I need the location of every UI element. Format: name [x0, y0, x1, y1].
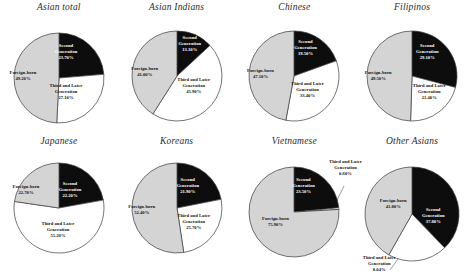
pie-svg: [118, 134, 236, 277]
pie-slice-foreign-born: [367, 31, 412, 121]
pie-slice-third-and-later: [177, 199, 222, 252]
pie-wrap: [118, 134, 236, 277]
pie-chart-cell: KoreansSecondGeneration21.90%Third and L…: [118, 134, 236, 277]
pie-svg: [353, 134, 471, 277]
pie-chart-cell: VietnameseSecondGeneration23.50%Third an…: [236, 134, 354, 277]
pie-chart-cell: ChineseSecondGeneration19.50%Third and L…: [236, 0, 354, 134]
pie-wrap: [0, 0, 118, 150]
pie-slice-foreign-born: [14, 163, 59, 208]
pie-svg: [0, 134, 118, 277]
pie-slice-foreign-born: [132, 163, 184, 253]
pie-wrap: [353, 134, 471, 277]
pie-wrap: [235, 134, 353, 277]
pie-wrap: [0, 134, 118, 277]
pie-svg: [235, 0, 353, 150]
pie-slice-foreign-born: [249, 31, 294, 120]
pie-svg: [0, 0, 118, 150]
pie-svg: [353, 0, 471, 150]
pie-chart-grid: Asian totalSecondGeneration23.70%Third a…: [0, 0, 471, 277]
pie-chart-cell: Asian IndiansSecondGeneration13.10%Third…: [118, 0, 236, 134]
pie-wrap: [235, 0, 353, 150]
pie-slice-third-and-later: [57, 74, 104, 123]
label-leader-line: [337, 186, 344, 200]
label-leader-line: [390, 259, 398, 270]
pie-svg: [235, 134, 353, 277]
pie-chart-cell: FilipinosSecondGeneration29.10%Third and…: [353, 0, 471, 134]
pie-slice-foreign-born: [14, 33, 59, 123]
pie-chart-cell: Asian totalSecondGeneration23.70%Third a…: [0, 0, 118, 134]
pie-slice-second-generation: [59, 33, 104, 78]
pie-slice-second-generation: [294, 167, 339, 212]
pie-wrap: [353, 0, 471, 150]
pie-wrap: [118, 0, 236, 150]
pie-chart-cell: JapaneseSecondGeneration22.20%Third and …: [0, 134, 118, 277]
pie-svg: [118, 0, 236, 150]
pie-chart-cell: Other AsiansSecondGeneration37.80%Third …: [353, 134, 471, 277]
